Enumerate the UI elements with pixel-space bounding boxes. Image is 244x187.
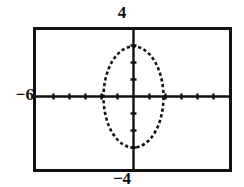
plot-area [0,0,244,187]
graph-figure: 4 −6 −4 [0,0,244,187]
